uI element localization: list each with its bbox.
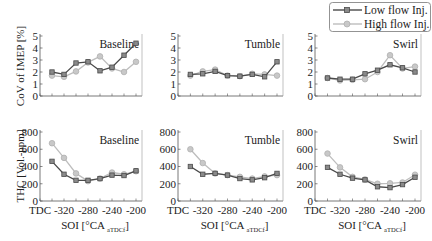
data-point-low-flow bbox=[201, 172, 205, 176]
data-point-low-flow bbox=[413, 175, 417, 179]
subplot-thc-tumble: 0200400600800TDC-320-280-240-200SOI [°CA… bbox=[160, 126, 288, 233]
data-point-low-flow bbox=[338, 77, 342, 81]
data-point-low-flow bbox=[122, 53, 126, 57]
y-tick-label: 0 bbox=[171, 90, 177, 102]
data-point-low-flow bbox=[62, 172, 66, 176]
y-tick-label: 5 bbox=[308, 30, 314, 42]
y-tick-label: 5 bbox=[171, 30, 177, 42]
panel-title: Swirl bbox=[393, 38, 418, 50]
circle-marker-icon bbox=[344, 21, 350, 27]
panel-title: Tumble bbox=[245, 134, 280, 146]
x-tick-label: -280 bbox=[355, 204, 376, 216]
y-tick-label: 800 bbox=[297, 126, 314, 138]
panel-title: Baseline bbox=[99, 38, 139, 50]
panel-title: Tumble bbox=[245, 38, 280, 50]
subplot-grid: 012345Baseline012345Tumble012345Swirl020… bbox=[22, 30, 426, 233]
x-axis-title: SOI [°CA aTDCf] bbox=[338, 219, 406, 233]
x-tick-label: TDC bbox=[167, 204, 189, 216]
x-tick-label: -240 bbox=[380, 204, 401, 216]
data-point-high-flow bbox=[274, 73, 280, 79]
y-tick-label: 5 bbox=[33, 30, 39, 42]
data-point-low-flow bbox=[74, 61, 78, 65]
x-tick-label: TDC bbox=[304, 204, 326, 216]
data-point-low-flow bbox=[250, 178, 254, 182]
data-point-low-flow bbox=[86, 178, 90, 182]
y-tick-label: 200 bbox=[160, 178, 177, 190]
x-tick-label: TDC bbox=[29, 204, 51, 216]
y-tick-label: 1 bbox=[33, 78, 39, 90]
y-tick-label: 0 bbox=[33, 90, 39, 102]
x-axis-title: SOI [°CA aTDCf] bbox=[201, 219, 269, 233]
data-point-low-flow bbox=[134, 41, 138, 45]
data-point-high-flow bbox=[121, 69, 127, 75]
data-point-low-flow bbox=[350, 77, 354, 81]
y-tick-label: 3 bbox=[171, 54, 177, 66]
x-axis-title: SOI [°CA aTDCf] bbox=[61, 219, 129, 233]
y-tick-label: 2 bbox=[308, 66, 314, 78]
data-point-high-flow bbox=[133, 59, 139, 65]
y-tick-label: 4 bbox=[171, 42, 177, 54]
y-tick-label: 3 bbox=[308, 54, 314, 66]
x-tick-label: -240 bbox=[242, 204, 263, 216]
data-point-high-flow bbox=[73, 69, 79, 75]
x-tick-label: -280 bbox=[78, 204, 99, 216]
data-point-low-flow bbox=[86, 60, 90, 64]
subplot-thc-swirl: 0200400600800TDC-320-280-240-200SOI [°CA… bbox=[297, 126, 426, 233]
data-point-low-flow bbox=[250, 72, 254, 76]
legend-label-low-flow: Low flow Inj. bbox=[364, 4, 428, 17]
x-tick-label: -200 bbox=[405, 204, 426, 216]
data-point-low-flow bbox=[275, 171, 279, 175]
data-point-low-flow bbox=[62, 72, 66, 76]
data-point-low-flow bbox=[388, 185, 392, 189]
subplot-cov-swirl: 012345Swirl bbox=[308, 30, 422, 102]
data-point-low-flow bbox=[388, 63, 392, 67]
subplot-cov-tumble: 012345Tumble bbox=[171, 30, 284, 102]
data-point-low-flow bbox=[188, 164, 192, 168]
data-point-low-flow bbox=[375, 185, 379, 189]
data-point-high-flow bbox=[73, 171, 79, 177]
y-tick-label: 3 bbox=[33, 54, 39, 66]
data-point-high-flow bbox=[49, 140, 55, 146]
data-point-low-flow bbox=[325, 165, 329, 169]
data-point-low-flow bbox=[134, 169, 138, 173]
data-point-low-flow bbox=[238, 176, 242, 180]
y-tick-label: 200 bbox=[297, 178, 314, 190]
y-tick-label: 400 bbox=[297, 160, 314, 172]
data-point-high-flow bbox=[325, 151, 331, 157]
x-tick-label: -280 bbox=[217, 204, 238, 216]
data-point-low-flow bbox=[363, 72, 367, 76]
figure: 012345Baseline012345Tumble012345Swirl020… bbox=[0, 0, 432, 241]
bottom-y-axis-title: THC [Vol.-ppm] bbox=[14, 129, 26, 202]
x-tick-label: -320 bbox=[330, 204, 351, 216]
data-point-low-flow bbox=[275, 60, 279, 64]
y-tick-label: 600 bbox=[160, 143, 177, 155]
x-tick-label: -320 bbox=[54, 204, 75, 216]
data-point-low-flow bbox=[238, 74, 242, 78]
data-point-low-flow bbox=[338, 172, 342, 176]
data-point-low-flow bbox=[350, 176, 354, 180]
y-tick-label: 400 bbox=[160, 160, 177, 172]
data-point-low-flow bbox=[110, 65, 114, 69]
data-point-low-flow bbox=[213, 69, 217, 73]
data-point-high-flow bbox=[188, 146, 194, 152]
data-point-low-flow bbox=[413, 70, 417, 74]
y-tick-label: 2 bbox=[171, 66, 177, 78]
y-tick-label: 600 bbox=[297, 143, 314, 155]
data-point-high-flow bbox=[97, 54, 103, 60]
data-point-low-flow bbox=[262, 75, 266, 79]
data-point-low-flow bbox=[262, 176, 266, 180]
panel-title: Swirl bbox=[393, 134, 418, 146]
data-point-low-flow bbox=[50, 159, 54, 163]
y-tick-label: 1 bbox=[308, 78, 314, 90]
data-point-low-flow bbox=[188, 72, 192, 76]
data-point-low-flow bbox=[74, 178, 78, 182]
data-point-low-flow bbox=[201, 72, 205, 76]
square-marker-icon bbox=[345, 8, 350, 13]
y-tick-label: 4 bbox=[308, 42, 314, 54]
data-point-high-flow bbox=[61, 155, 67, 161]
x-tick-label: -320 bbox=[193, 204, 214, 216]
x-tick-label: -240 bbox=[102, 204, 123, 216]
data-point-low-flow bbox=[363, 178, 367, 182]
data-point-low-flow bbox=[98, 69, 102, 73]
data-point-high-flow bbox=[387, 52, 393, 58]
